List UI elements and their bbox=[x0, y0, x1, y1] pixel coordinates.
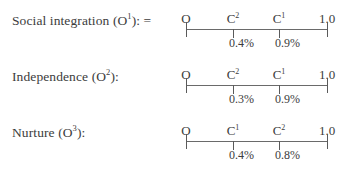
scale-line bbox=[186, 85, 327, 86]
start-tick bbox=[186, 134, 187, 149]
point-letter: C bbox=[273, 67, 282, 82]
end-tick bbox=[327, 134, 328, 149]
scale-point-label: C2 bbox=[227, 11, 240, 27]
point-superscript: 1 bbox=[281, 67, 285, 76]
point-value: 0.8% bbox=[275, 148, 300, 163]
scale-row-nurture: Nurture (O3): O C1 C2 1.0 0.4% 0.8% bbox=[0, 118, 346, 174]
point-value: 0.3% bbox=[229, 92, 254, 107]
scale-axis: O C2 C1 1.0 0.3% 0.9% bbox=[0, 62, 346, 118]
point-value: 0.4% bbox=[229, 36, 254, 51]
point-value: 0.9% bbox=[275, 36, 300, 51]
scale-row-social-integration: Social integration (O1): = O C2 C1 1.0 0… bbox=[0, 6, 346, 62]
point-superscript: 2 bbox=[281, 123, 285, 132]
point-superscript: 1 bbox=[281, 11, 285, 20]
scale-point-label: C1 bbox=[227, 123, 240, 139]
scale-row-independence: Independence (O2): O C2 C1 1.0 0.3% 0.9% bbox=[0, 62, 346, 118]
start-tick bbox=[186, 22, 187, 37]
point-value: 0.4% bbox=[229, 148, 254, 163]
scale-axis: O C2 C1 1.0 0.4% 0.9% bbox=[0, 6, 346, 62]
point-letter: C bbox=[227, 67, 236, 82]
scale-axis: O C1 C2 1.0 0.4% 0.8% bbox=[0, 118, 346, 174]
scale-point-label: C1 bbox=[273, 67, 286, 83]
point-letter: C bbox=[227, 123, 236, 138]
end-tick bbox=[327, 78, 328, 93]
point-superscript: 2 bbox=[235, 67, 239, 76]
point-superscript: 2 bbox=[235, 11, 239, 20]
point-letter: C bbox=[273, 123, 282, 138]
scale-line bbox=[186, 141, 327, 142]
scale-point-label: C2 bbox=[227, 67, 240, 83]
scale-line bbox=[186, 29, 327, 30]
end-tick bbox=[327, 22, 328, 37]
point-superscript: 1 bbox=[235, 123, 239, 132]
point-letter: C bbox=[227, 11, 236, 26]
scale-point-label: C2 bbox=[273, 123, 286, 139]
point-letter: C bbox=[273, 11, 282, 26]
scale-point-label: C1 bbox=[273, 11, 286, 27]
start-tick bbox=[186, 78, 187, 93]
point-value: 0.9% bbox=[275, 92, 300, 107]
